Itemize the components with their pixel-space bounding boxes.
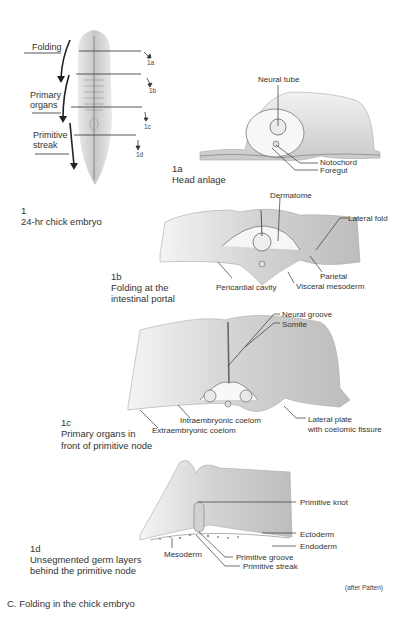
embryo-whole-view (78, 30, 112, 185)
label-visceral-mesoderm: Visceral mesoderm (296, 282, 364, 291)
section-ref-1c: 1c (144, 123, 151, 130)
panel-1b-title-line2: intestinal portal (111, 293, 175, 304)
region-label-primary-1: Primary (30, 91, 61, 100)
label-primitive-groove: Primitive groove (236, 553, 293, 562)
panel-1d-number: 1d (30, 543, 41, 554)
label-intraembryonic-coelom: Intraembryonic coelom (180, 416, 261, 425)
panel-1d-title-line2: behind the primitive node (30, 565, 136, 576)
section-ref-1b: 1b (149, 87, 156, 94)
primary-organs-drawing (128, 315, 350, 411)
region-label-primitive-1: Primitive (33, 131, 68, 140)
label-endoderm: Endoderm (300, 542, 337, 551)
region-label-primary-2: organs (30, 101, 58, 110)
label-lateral-fold: Lateral fold (348, 214, 388, 223)
section-ref-1d: 1d (136, 151, 143, 158)
label-neural-tube: Neural tube (258, 75, 299, 84)
panel-1c-number: 1c (61, 417, 71, 428)
diagram-artwork (0, 0, 409, 624)
label-primitive-knot: Primitive knot (300, 498, 348, 507)
label-mesoderm: Mesoderm (164, 550, 202, 559)
label-parietal: Parietal (320, 272, 347, 281)
panel-1-number: 1 (21, 205, 26, 216)
panel-1d-title-line1: Unsegmented germ layers (30, 554, 141, 565)
panel-1b-number: 1b (111, 271, 122, 282)
head-anlage-drawing (200, 92, 380, 161)
label-neural-groove: Neural groove (282, 310, 332, 319)
panel-1a-title: Head anlage (172, 174, 226, 185)
folding-arrows (61, 40, 74, 165)
primitive-streak-drawing (140, 460, 292, 540)
section-ref-1a: 1a (147, 59, 154, 66)
figure-credit: (after Patten) (345, 584, 383, 591)
label-dermatome: Dermatome (270, 191, 312, 200)
figure-caption: C. Folding in the chick embryo (7, 598, 135, 609)
label-ectoderm: Ectoderm (300, 530, 334, 539)
region-label-folding: Folding (32, 43, 62, 52)
region-label-primitive-2: streak (33, 141, 58, 150)
label-extraembryonic-coelom: Extraembryonic coelom (152, 426, 236, 435)
label-lateral-plate-2: with coelomic fissure (308, 425, 382, 434)
label-somite: Somite (282, 320, 307, 329)
section-pointers (136, 52, 152, 150)
panel-1b-title-line1: Folding at the (111, 282, 169, 293)
panel-1a-number: 1a (172, 163, 183, 174)
label-pericardial-cavity: Pericardial cavity (216, 283, 276, 292)
label-primitive-streak: Primitive streak (243, 562, 298, 571)
panel-1c-title-line2: front of primitive node (61, 440, 152, 451)
label-foregut: Foregut (320, 166, 348, 175)
panel-1-title: 24-hr chick embryo (21, 216, 102, 227)
panel-1c-title-line1: Primary organs in (61, 428, 135, 439)
label-lateral-plate-1: Lateral plate (308, 415, 352, 424)
